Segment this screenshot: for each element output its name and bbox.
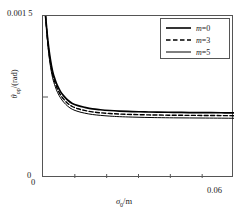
legend-entry-1: m=3 [165,34,225,46]
legend-line-sample-solid [165,24,192,32]
x-axis-ticks [75,174,202,178]
y-axis-symbol: θ [9,94,19,98]
x-axis-max-label: 0.06 [207,186,222,195]
y-axis-unit: /(rad) [9,69,19,88]
legend-label-m0: m=0 [196,24,210,33]
x-axis-min-label: 0 [31,178,35,187]
x-axis-unit: /m [123,196,132,206]
y-axis-max-label: 0.001 5 [7,9,33,18]
legend-entry-0: m=0 [165,22,225,34]
y-axis-subscript: op [15,88,21,94]
legend-label-m3: m=3 [196,36,210,45]
figure-container: 0.001 5 0 0.06 θop/(rad) σ0/m m=0 m=3 m=… [0,0,248,219]
legend-entry-2: m=5 [165,46,225,58]
legend-label-m5: m=5 [196,48,210,57]
legend-line-sample-dashed [165,36,192,44]
legend: m=0 m=3 m=5 [160,18,230,59]
legend-line-sample-solid-thin [165,48,192,56]
x-axis-title: σ0/m [0,196,248,208]
y-axis-title: θop/(rad) [9,53,21,115]
